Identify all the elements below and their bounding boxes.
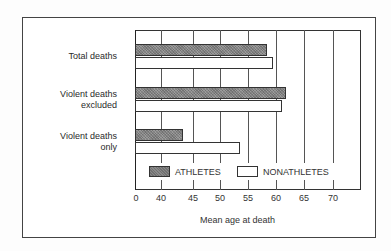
tick-60: 60 xyxy=(266,193,286,203)
bar-excl-nonathletes xyxy=(135,100,282,112)
tick-0: 0 xyxy=(126,193,146,203)
tick-50: 50 xyxy=(210,193,230,203)
bar-only-athletes xyxy=(135,129,183,141)
tick-40: 40 xyxy=(151,193,171,203)
legend-swatch-athletes xyxy=(149,166,170,177)
bar-total-nonathletes xyxy=(135,57,273,69)
bar-excl-athletes xyxy=(135,87,286,99)
legend-label-athletes: ATHLETES xyxy=(175,167,221,177)
bar-only-nonathletes xyxy=(135,142,240,154)
bar-total-athletes xyxy=(135,44,267,56)
category-label-only: Violent deathsonly xyxy=(60,131,117,153)
tick-55: 55 xyxy=(238,193,258,203)
category-label-total: Total deaths xyxy=(68,51,117,62)
x-axis-label: Mean age at death xyxy=(200,215,275,225)
tick-45: 45 xyxy=(183,193,203,203)
legend-label-nonathletes: NONATHLETES xyxy=(263,167,329,177)
tick-70: 70 xyxy=(323,193,343,203)
category-label-excluded: Violent deathsexcluded xyxy=(60,89,117,111)
legend-swatch-nonathletes xyxy=(237,166,258,177)
tick-65: 65 xyxy=(294,193,314,203)
